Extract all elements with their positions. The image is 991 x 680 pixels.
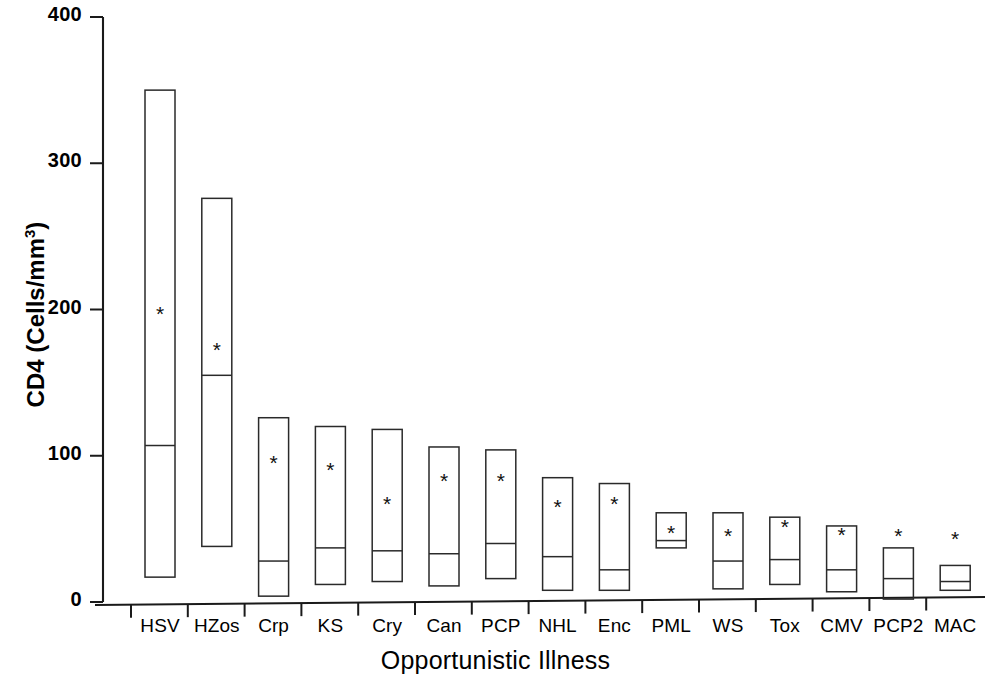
- mean-asterisk-marker: *: [440, 469, 448, 492]
- box-quartile-range: [145, 90, 175, 577]
- box-quartile-range: [202, 198, 232, 546]
- boxplot-box: *: [940, 527, 970, 590]
- x-axis-line: [95, 597, 985, 605]
- cd4-opportunistic-illness-boxplot-figure: CD4 (Cells/mm3) *************** 01002003…: [0, 0, 991, 680]
- boxplot-box: *: [883, 524, 913, 599]
- mean-asterisk-marker: *: [951, 527, 959, 550]
- mean-asterisk-marker: *: [270, 451, 278, 474]
- mean-asterisk-marker: *: [894, 524, 902, 547]
- boxplot-box: *: [486, 450, 516, 579]
- boxplot-box: *: [202, 198, 232, 546]
- x-axis-title: Opportunistic Illness: [0, 646, 991, 675]
- boxplot-box: *: [656, 513, 686, 548]
- box-quartile-range: [883, 548, 913, 599]
- boxplot-box: *: [372, 429, 402, 581]
- boxplot-box: *: [145, 90, 175, 577]
- mean-asterisk-marker: *: [554, 495, 562, 518]
- mean-asterisk-marker: *: [781, 515, 789, 538]
- y-axis-tick-label: 400: [20, 3, 82, 26]
- mean-asterisk-marker: *: [326, 458, 334, 481]
- mean-asterisk-marker: *: [497, 469, 505, 492]
- y-axis-tick-label: 200: [20, 296, 82, 319]
- box-quartile-range: [259, 418, 289, 596]
- boxplot-box: *: [827, 523, 857, 592]
- mean-asterisk-marker: *: [610, 492, 618, 515]
- mean-asterisk-marker: *: [156, 302, 164, 325]
- boxplot-box: *: [713, 513, 743, 589]
- box-quartile-range: [940, 565, 970, 590]
- boxplot-box: *: [259, 418, 289, 596]
- boxplot-box: *: [599, 484, 629, 591]
- boxplot-box: *: [543, 478, 573, 591]
- mean-asterisk-marker: *: [724, 524, 732, 547]
- x-axis-tick-label: MAC: [903, 615, 991, 637]
- y-axis-tick-label: 100: [20, 442, 82, 465]
- mean-asterisk-marker: *: [667, 521, 675, 544]
- y-axis-tick-label: 300: [20, 149, 82, 172]
- boxplot-box: *: [315, 427, 345, 585]
- plot-area: ***************: [0, 0, 991, 680]
- box-quartile-range: [315, 427, 345, 585]
- mean-asterisk-marker: *: [838, 523, 846, 546]
- boxplot-box: *: [770, 515, 800, 584]
- mean-asterisk-marker: *: [213, 338, 221, 361]
- boxplot-box: *: [429, 447, 459, 586]
- y-axis-tick-label: 0: [20, 588, 82, 611]
- mean-asterisk-marker: *: [383, 492, 391, 515]
